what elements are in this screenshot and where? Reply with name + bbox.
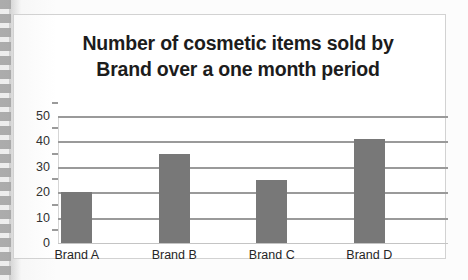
category-label-brand-d: Brand D bbox=[324, 249, 414, 262]
x-axis-category-labels: Brand ABrand BBrand CBrand D bbox=[58, 249, 448, 267]
axis-tick-20 bbox=[52, 178, 58, 180]
category-label-brand-b: Brand B bbox=[129, 249, 219, 262]
bar-brand-b[interactable] bbox=[159, 154, 190, 243]
y-tick-label-30: 30 bbox=[24, 161, 50, 174]
plot-area bbox=[58, 116, 448, 243]
axis-tick-10 bbox=[52, 204, 58, 206]
y-tick-label-0: 0 bbox=[24, 237, 50, 250]
y-tick-label-40: 40 bbox=[24, 135, 50, 148]
scanned-page: Number of cosmetic items sold by Brand o… bbox=[0, 0, 468, 280]
y-tick-label-20: 20 bbox=[24, 186, 50, 199]
gridline-10 bbox=[58, 218, 448, 220]
y-tick-label-50: 50 bbox=[24, 110, 50, 123]
chart-title: Number of cosmetic items sold by Brand o… bbox=[28, 31, 448, 82]
chart-title-line-2: Brand over a one month period bbox=[28, 57, 448, 83]
bar-brand-c[interactable] bbox=[256, 180, 287, 244]
y-axis-tick-labels: 50403020100 bbox=[22, 116, 50, 243]
bar-brand-d[interactable] bbox=[354, 139, 385, 243]
category-label-brand-a: Brand A bbox=[32, 249, 122, 262]
gridline-50 bbox=[58, 116, 448, 118]
chart-frame: Number of cosmetic items sold by Brand o… bbox=[13, 14, 446, 259]
gridline-20 bbox=[58, 192, 448, 194]
gridline-40 bbox=[58, 141, 448, 143]
axis-tick-30 bbox=[52, 153, 58, 155]
axis-tick-50 bbox=[52, 102, 58, 104]
gridline-30 bbox=[58, 167, 448, 169]
bar-brand-a[interactable] bbox=[61, 192, 92, 243]
chart-title-line-1: Number of cosmetic items sold by bbox=[28, 31, 448, 57]
category-label-brand-c: Brand C bbox=[227, 249, 317, 262]
gridline-0 bbox=[58, 243, 448, 244]
y-tick-label-10: 10 bbox=[24, 212, 50, 225]
axis-tick-40 bbox=[52, 127, 58, 129]
axis-tick-0 bbox=[52, 229, 58, 231]
